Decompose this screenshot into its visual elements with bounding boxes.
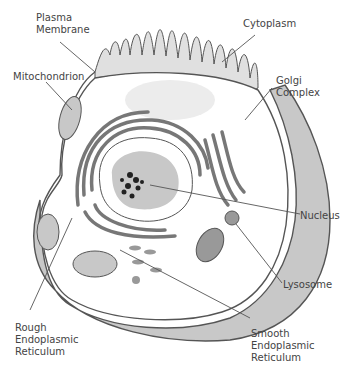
label-nucleus: Nucleus [300,210,340,222]
label-plasma-membrane: Plasma Membrane [36,12,90,36]
lysosome-shape [225,211,239,225]
label-smooth-er: Smooth Endoplasmic Reticulum [251,328,315,364]
label-mitochondrion: Mitochondrion [13,71,84,83]
label-lysosome: Lysosome [283,279,332,291]
cell-diagram: Plasma Membrane Mitochondrion Cytoplasm … [0,0,346,373]
label-cytoplasm: Cytoplasm [243,18,296,30]
label-rough-er: Rough Endoplasmic Reticulum [15,322,79,358]
cell-illustration [0,0,346,373]
label-golgi-complex: Golgi Complex [276,75,320,99]
